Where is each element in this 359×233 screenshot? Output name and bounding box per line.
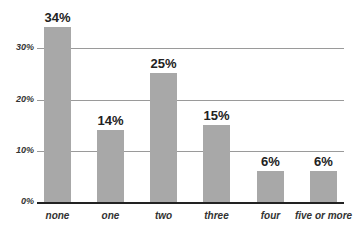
bar-value-label: 34% <box>33 10 83 25</box>
y-tick-label: 30% <box>2 42 34 52</box>
bar-none <box>44 27 71 202</box>
gridline-20 <box>37 100 344 101</box>
bar-one <box>97 130 124 202</box>
bar-four <box>257 171 284 202</box>
bar-value-label: 14% <box>86 113 136 128</box>
gridline-10 <box>37 151 344 152</box>
y-tick-label: 20% <box>2 94 34 104</box>
gridline-30 <box>37 48 344 49</box>
bar-five-or-more <box>310 171 337 202</box>
bar-value-label: 15% <box>192 108 242 123</box>
bar-value-label: 6% <box>299 154 349 169</box>
y-tick-label: 0% <box>2 196 34 206</box>
bar-value-label: 25% <box>139 56 189 71</box>
x-axis <box>37 202 344 204</box>
bar-three <box>203 125 230 202</box>
y-tick-label: 10% <box>2 145 34 155</box>
category-label: five or more <box>289 210 359 221</box>
bar-value-label: 6% <box>246 154 296 169</box>
bar-two <box>150 73 177 202</box>
